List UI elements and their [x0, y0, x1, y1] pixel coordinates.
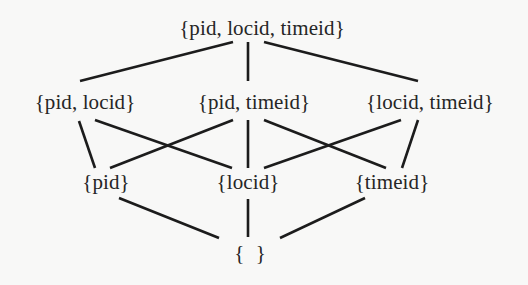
edge-top-to-locid-timeid [264, 42, 418, 81]
edge-top-to-pid-locid [80, 42, 233, 81]
node-locid: {locid} [217, 170, 280, 194]
edge-pid-to-empty [119, 198, 219, 238]
edge-locid-timeid-to-timeid [402, 120, 418, 168]
edge-timeid-to-empty [280, 198, 365, 238]
node-pid-timeid: {pid, timeid} [198, 90, 310, 114]
node-pid-locid: {pid, locid} [35, 90, 136, 114]
node-empty-set: { } [234, 241, 266, 265]
edge-pid-locid-to-pid [79, 121, 95, 168]
lattice-diagram: {pid, locid, timeid} {pid, locid} {pid, … [0, 0, 528, 285]
node-timeid: {timeid} [355, 170, 430, 194]
node-pid: {pid} [82, 170, 130, 194]
node-locid-timeid: {locid, timeid} [366, 90, 494, 114]
node-pid-locid-timeid: {pid, locid, timeid} [179, 16, 345, 40]
